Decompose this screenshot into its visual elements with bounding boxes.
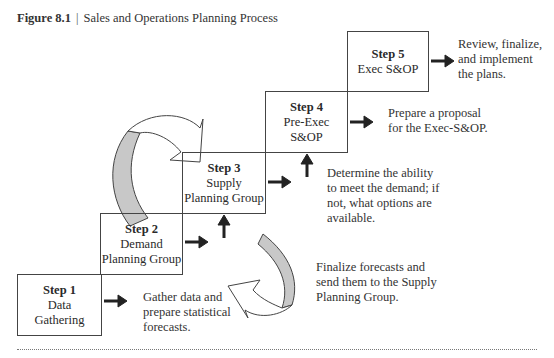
- step-1-label: Step 1: [43, 283, 76, 298]
- step-5-description: Review, finalize, and implement the plan…: [458, 37, 542, 82]
- curved-arrow-icon-lower: [228, 234, 295, 318]
- arrow-right-icon-step4: [350, 116, 373, 128]
- step-5-name: Exec S&OP: [358, 62, 419, 77]
- bottom-divider: [17, 349, 537, 350]
- step-2-box: Step 2 Demand Planning Group: [100, 213, 183, 275]
- step-4-description: Prepare a proposal for the Exec-S&OP.: [388, 106, 488, 136]
- step-5-label: Step 5: [372, 47, 405, 62]
- arrow-right-icon-step5: [431, 55, 454, 67]
- arrow-up-icon-step3: [301, 154, 313, 177]
- step-3-description: Determine the ability to meet the demand…: [327, 166, 439, 226]
- arrow-right-icon-step3: [268, 176, 291, 188]
- step-1-box: Step 1 Data Gathering: [17, 274, 102, 336]
- step-2-label: Step 2: [125, 222, 158, 237]
- step-5-box: Step 5 Exec S&OP: [347, 31, 429, 92]
- step-2-name: Demand Planning Group: [102, 237, 182, 267]
- step-1-name: Data Gathering: [35, 298, 85, 328]
- step-4-name: Pre-Exec S&OP: [284, 115, 330, 145]
- step-3-name: Supply Planning Group: [184, 176, 264, 206]
- step-3-label: Step 3: [208, 161, 241, 176]
- arrow-up-icon-step2: [218, 215, 230, 238]
- step-4-box: Step 4 Pre-Exec S&OP: [265, 91, 348, 153]
- step-2-description: Finalize forecasts and send them to the …: [316, 260, 437, 305]
- arrow-right-icon-step1: [104, 295, 127, 307]
- step-3-box: Step 3 Supply Planning Group: [182, 152, 266, 214]
- arrow-right-icon-step2: [185, 236, 208, 248]
- step-1-description: Gather data and prepare statistical fore…: [143, 290, 231, 335]
- step-4-label: Step 4: [290, 100, 323, 115]
